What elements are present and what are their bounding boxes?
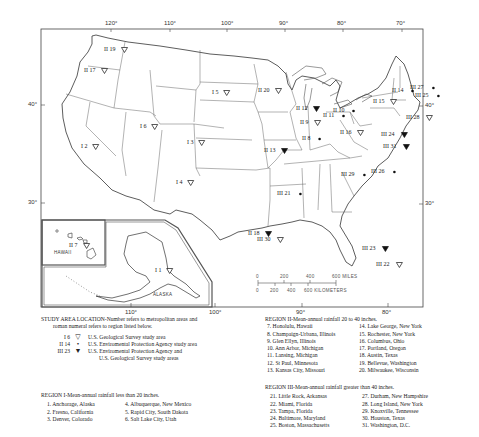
epa-site-dot-icon	[299, 193, 302, 196]
longitude-label: 100°	[221, 20, 233, 26]
scale-miles-label: 0	[256, 274, 259, 279]
hawaii-label: HAWAII	[54, 250, 71, 255]
site-label: III 24	[381, 131, 395, 137]
longitude-label: 80°	[382, 309, 391, 315]
site-label: II 13	[264, 147, 276, 153]
list-item: 24. Baltimore, Maryland	[270, 415, 362, 422]
site-label: III 21	[277, 190, 291, 196]
latitude-label: 40°	[425, 102, 434, 108]
open-triangle-icon	[188, 181, 194, 186]
legend-title-line2: roman numeral refers to region listed be…	[41, 323, 241, 330]
epa-site-dot-icon	[318, 138, 321, 141]
list-item: 8. Champaign-Urbana, Illinois	[267, 331, 359, 338]
legend-code: III 23	[54, 348, 70, 355]
site-label: III 27	[410, 84, 424, 90]
scale-km-label: 400	[287, 288, 296, 293]
site-label: III 29	[341, 171, 355, 177]
open-triangle-icon	[315, 121, 321, 126]
list-item: 22. Miami, Florida	[270, 401, 362, 408]
list-item: 6. Salt Lake City, Utah	[125, 416, 191, 423]
legend-both-row: III 23 ▼ U.S. Enviromental Protection Ag…	[54, 348, 241, 355]
site-label: II 14	[392, 87, 404, 93]
open-triangle-icon	[391, 100, 397, 105]
longitude-label: 70°	[396, 20, 405, 26]
site-label: III 31	[383, 143, 397, 149]
region-3-col1: 21. Little Rock, Arkansas22. Miami, Flor…	[265, 393, 362, 429]
longitude-label: 100°	[209, 309, 221, 315]
legend-usgs-row: I 6 ▽ U.S. Geological Survey study area	[54, 334, 241, 341]
epa-site-dot-icon	[363, 174, 366, 177]
region-2-col2: 14. Lake George, New York15. Rochester, …	[359, 323, 422, 374]
region-2-title: REGION II-Mean-annual rainfall 20 to 40 …	[265, 316, 479, 323]
site-label: III 25	[415, 92, 429, 98]
filled-triangle-icon	[314, 107, 320, 112]
region-2-list: REGION II-Mean-annual rainfall 20 to 40 …	[265, 316, 479, 374]
list-item: 14. Lake George, New York	[359, 323, 422, 330]
scale-miles-label: 600 MILES	[332, 274, 357, 279]
list-item: 27. Durham, New Hampshire	[362, 393, 428, 400]
legend-label: U.S. Geological Survey study area	[88, 334, 165, 341]
legend-title-line1: STUDY AREA LOCATION-Number refers to met…	[41, 316, 241, 323]
list-item: 2. Fresno, California	[47, 409, 125, 416]
list-item: 1. Anchorage, Alaska	[47, 401, 125, 408]
legend-code: I 6	[54, 334, 70, 341]
scale-km-label: 200	[270, 288, 279, 293]
open-triangle-icon	[93, 145, 99, 150]
longitude-label: 120°	[105, 20, 117, 26]
scale-km-label: 600 KILOMETERS	[304, 288, 347, 293]
epa-site-dot-icon	[342, 115, 345, 118]
filled-triangle-icon	[282, 149, 288, 154]
site-label: II 7	[69, 242, 78, 248]
list-item: 3. Denver, Colorado	[47, 416, 125, 423]
region-1-col1: 1. Anchorage, Alaska2. Fresno, Californi…	[41, 401, 125, 423]
open-triangle-icon	[102, 69, 108, 74]
list-item: 4. Albuquerque, New Mexico	[125, 401, 191, 408]
legend-label: U.S. Enviromental Protection Agency and	[88, 348, 182, 355]
list-item: 9. Glen Ellyn, Illinois	[267, 338, 359, 345]
site-label: II 11	[323, 112, 334, 118]
list-item: 20. Milwaukee, Wisconsin	[359, 367, 422, 374]
site-label: III 26	[371, 168, 385, 174]
state-boundaries	[66, 42, 406, 226]
list-item: 28. Long Island, New York	[362, 401, 428, 408]
site-label: I 3	[187, 139, 194, 145]
latitude-label: 30°	[425, 200, 434, 206]
site-label: II 9	[300, 119, 309, 125]
site-label: II 8	[302, 135, 311, 141]
epa-site-dot-icon	[352, 110, 355, 113]
site-label: III 23	[362, 245, 376, 251]
latitude-ticks	[41, 105, 423, 204]
site-label: II 12	[296, 105, 308, 111]
list-item: 7. Honolulu, Hawaii	[267, 323, 359, 330]
site-label: II 19	[104, 46, 116, 52]
epa-site-dot-icon	[411, 90, 414, 93]
longitude-label: 90°	[279, 20, 288, 26]
list-item: 15. Rochester, New York	[359, 331, 422, 338]
list-item: 23. Tampa, Florida	[270, 408, 362, 415]
site-label: I 1	[155, 267, 162, 273]
list-item: 18. Austin, Texas	[359, 352, 422, 359]
open-triangle-icon	[84, 244, 90, 249]
list-item: 25. Boston, Massachusetts	[270, 422, 362, 429]
scale-km-label: 0	[256, 288, 259, 293]
latitude-label: 40°	[28, 101, 37, 107]
filled-triangle-icon	[382, 247, 388, 252]
list-item: 30. Houston, Texas	[362, 415, 428, 422]
open-triangle-icon	[276, 89, 282, 94]
longitude-label: 110°	[164, 20, 176, 26]
list-item: 11. Lansing, Michigan	[267, 352, 359, 359]
scale-miles-label: 200	[280, 274, 289, 279]
list-item: 5. Rapid City, South Dakota	[125, 409, 191, 416]
site-label: II 15	[373, 98, 385, 104]
site-label: I 6	[140, 123, 147, 129]
list-item: 19. Bellevue, Washington	[359, 360, 422, 367]
open-triangle-icon	[358, 131, 364, 136]
list-item: 17. Portland, Oregon	[359, 345, 422, 352]
region-1-title: REGION I-Mean-annual rainfall less than …	[41, 392, 241, 399]
top-longitude-ticks	[111, 29, 402, 32]
alaska-label: ALASKA	[153, 292, 172, 297]
site-label: II 10	[333, 107, 345, 113]
longitude-label: 90°	[296, 309, 305, 315]
region-1-list: REGION I-Mean-annual rainfall less than …	[41, 392, 241, 423]
latitude-label: 30°	[28, 199, 37, 205]
